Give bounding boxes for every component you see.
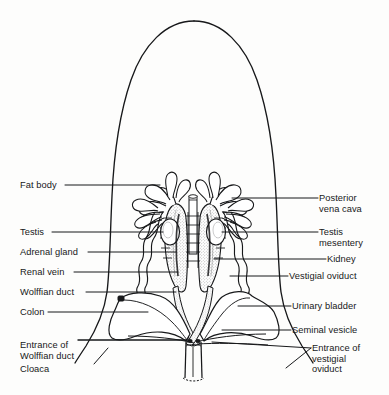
label-urinary-bladder: Urinary bladder	[292, 301, 356, 312]
label-posterior-vena-cava: Posterior vena cava	[319, 193, 362, 214]
label-vestigial-oviduct: Vestigial oviduct	[289, 271, 357, 282]
label-renal-vein: Renal vein	[20, 267, 64, 278]
label-kidney: Kidney	[327, 254, 356, 265]
label-testis-mesentery: Testis mesentery	[319, 227, 363, 248]
label-cloaca: Cloaca	[20, 364, 49, 375]
label-wolffian-duct: Wolffian duct	[20, 287, 74, 298]
anatomical-diagram: Fat body Testis Adrenal gland Renal vein…	[0, 0, 389, 395]
label-testis: Testis	[20, 227, 44, 238]
cloaca-structure	[183, 342, 204, 381]
label-fat-body: Fat body	[20, 180, 57, 191]
label-colon: Colon	[20, 307, 45, 318]
label-entrance-of-wolffian-duct: Entrance of Wolffian duct	[20, 340, 74, 361]
posterior-vena-cava-structure	[189, 195, 197, 254]
label-entrance-of-vestigial-oviduct: Entrance of vestigial oviduct	[312, 343, 360, 375]
label-seminal-vesicle: Seminal vesicle	[292, 325, 357, 336]
label-adrenal-gland: Adrenal gland	[20, 247, 78, 258]
